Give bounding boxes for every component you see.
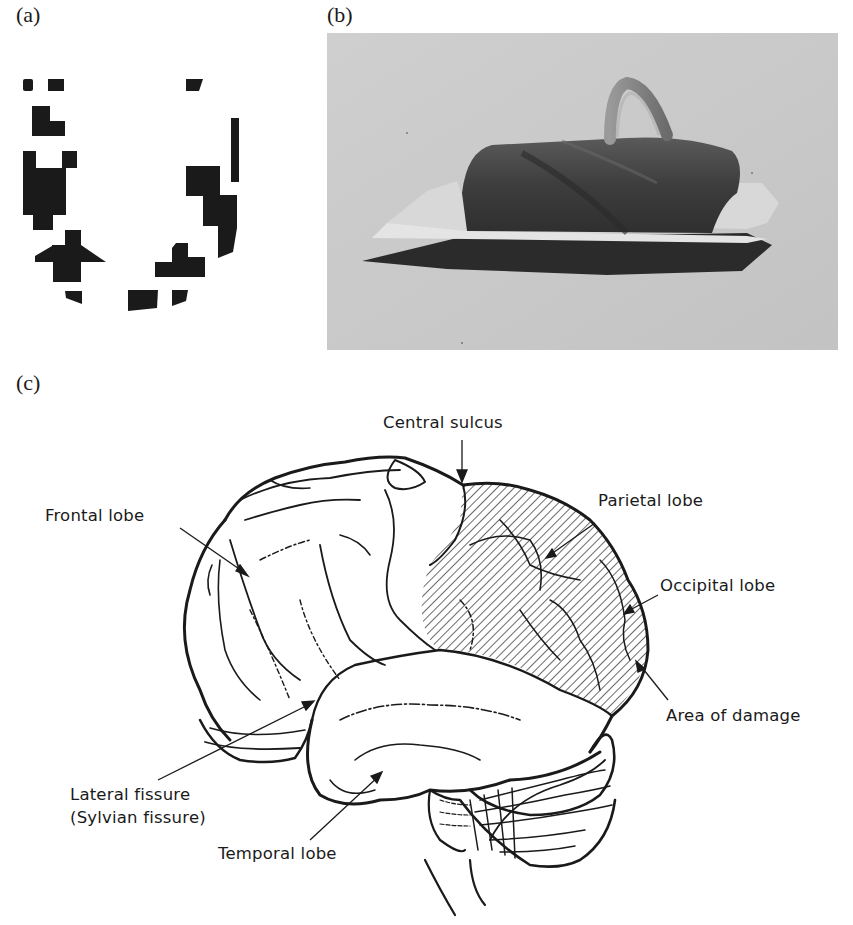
- label-temporal-lobe: Temporal lobe: [218, 844, 337, 863]
- hat-object-photo: [327, 33, 838, 350]
- label-occipital-lobe: Occipital lobe: [660, 576, 775, 595]
- label-lateral-fissure: Lateral fissure: [70, 785, 190, 804]
- panel-b-label: (b): [327, 2, 353, 28]
- label-central-sulcus: Central sulcus: [383, 413, 503, 432]
- brain-line-drawing: [0, 360, 853, 925]
- panel-b-photograph: [327, 33, 838, 350]
- label-area-of-damage: Area of damage: [666, 706, 801, 725]
- label-sylvian-fissure: (Sylvian fissure): [70, 808, 206, 827]
- panel-a-block-pattern: [0, 0, 300, 320]
- label-parietal-lobe: Parietal lobe: [598, 491, 703, 510]
- label-frontal-lobe: Frontal lobe: [45, 506, 144, 525]
- panel-c-brain-diagram: Central sulcus Frontal lobe Parietal lob…: [0, 360, 853, 925]
- block-pattern-graphic: [0, 0, 300, 320]
